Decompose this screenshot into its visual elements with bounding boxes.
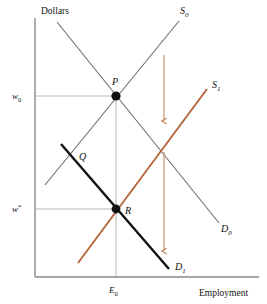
chart-canvas: Dollars Employment w0 w* E0 S0 S1: [0, 0, 267, 304]
svg-text:w*: w*: [12, 203, 21, 214]
svg-text:S1: S1: [212, 79, 221, 93]
curves: [45, 21, 219, 269]
supply-demand-diagram: Dollars Employment w0 w* E0 S0 S1: [0, 0, 267, 304]
guide-lines: [35, 94, 117, 277]
x-axis-title: Employment: [199, 288, 248, 298]
curve-label-d1: D1: [174, 261, 186, 275]
y-tick-w0: w0: [12, 91, 21, 103]
svg-text:S0: S0: [180, 5, 189, 19]
svg-text:D1: D1: [174, 261, 186, 275]
curve-label-d0-sub: 0: [228, 229, 232, 237]
y-tick-w-star-sub: *: [18, 203, 21, 210]
point-p-marker: [111, 91, 120, 100]
x-tick-e0: E0: [108, 285, 118, 297]
curve-label-s1-sub: 1: [217, 85, 221, 93]
svg-text:D0: D0: [220, 223, 232, 237]
curve-label-d0: D0: [220, 223, 232, 237]
point-r-marker: [112, 205, 121, 214]
curve-label-d1-sub: 1: [182, 267, 186, 275]
axes: [35, 18, 259, 277]
point-label-r: R: [124, 205, 131, 216]
point-label-p: P: [111, 76, 118, 87]
svg-text:w0: w0: [12, 91, 21, 103]
curve-s0: [45, 21, 179, 185]
curve-label-s0-sub: 0: [185, 11, 189, 19]
y-tick-w-star: w*: [12, 203, 21, 214]
svg-text:E0: E0: [108, 285, 118, 297]
x-tick-e0-sub: 0: [115, 290, 118, 297]
y-axis-title: Dollars: [41, 6, 69, 16]
curve-d0: [57, 22, 219, 223]
y-tick-w0-sub: 0: [18, 96, 21, 103]
curve-label-s0: S0: [180, 5, 189, 19]
point-label-q: Q: [79, 151, 87, 162]
curve-label-s1: S1: [212, 79, 221, 93]
